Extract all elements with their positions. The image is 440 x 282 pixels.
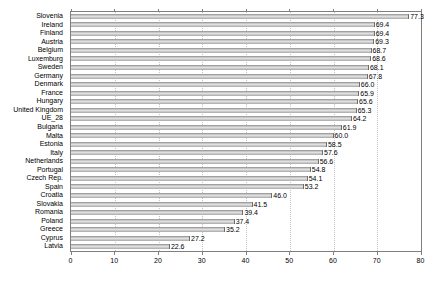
- bar-row: 69.4: [71, 21, 421, 30]
- category-label: Romania: [0, 208, 66, 217]
- category-label: France: [0, 89, 66, 98]
- bar: [71, 48, 372, 53]
- bar: [71, 210, 243, 215]
- value-label: 58.5: [328, 141, 342, 148]
- x-tick-label: 70: [366, 257, 388, 264]
- bar-row: 69.4: [71, 29, 421, 38]
- x-tick-label: 80: [410, 257, 432, 264]
- x-axis-tick: [421, 252, 422, 255]
- bar: [71, 39, 374, 44]
- x-axis-tick: [158, 252, 159, 255]
- bar-row: 68.7: [71, 46, 421, 55]
- bar: [71, 133, 334, 138]
- top-axis-tick: [71, 9, 72, 12]
- bar: [71, 108, 357, 113]
- category-label: Austria: [0, 38, 66, 47]
- x-tick-label: 20: [147, 257, 169, 264]
- bar-row: 54.1: [71, 174, 421, 183]
- bar-row: 53.2: [71, 183, 421, 192]
- bar: [71, 167, 311, 172]
- value-label: 64.2: [353, 115, 367, 122]
- value-label: 54.8: [312, 166, 326, 173]
- bar: [71, 184, 304, 189]
- bar: [71, 116, 352, 121]
- x-tick-label: 50: [278, 257, 300, 264]
- category-label: Cyprus: [0, 234, 66, 243]
- x-tick-label: 0: [60, 257, 82, 264]
- value-label: 68.6: [372, 55, 386, 62]
- x-axis-tick: [71, 252, 72, 255]
- value-label: 27.2: [191, 235, 205, 242]
- category-label: Denmark: [0, 80, 66, 89]
- value-label: 68.7: [373, 47, 387, 54]
- bar: [71, 142, 327, 147]
- category-label: UE_28: [0, 114, 66, 123]
- value-label: 77.3: [410, 13, 424, 20]
- value-label: 69.4: [376, 21, 390, 28]
- bar: [71, 236, 190, 241]
- bar-row: 58.5: [71, 140, 421, 149]
- bar-row: 61.9: [71, 123, 421, 132]
- x-tick-label: 40: [235, 257, 257, 264]
- bar-row: 46.0: [71, 191, 421, 200]
- bar-row: 67.8: [71, 72, 421, 81]
- value-label: 41.5: [254, 201, 268, 208]
- x-tick-label: 60: [322, 257, 344, 264]
- bar: [71, 65, 369, 70]
- category-label: Poland: [0, 217, 66, 226]
- value-label: 53.2: [305, 183, 319, 190]
- bar-row: 69.3: [71, 38, 421, 47]
- category-label: Germany: [0, 72, 66, 81]
- category-label: Luxemburg: [0, 55, 66, 64]
- bar-row: 60.0: [71, 132, 421, 141]
- bar: [71, 125, 342, 130]
- bar-row: 22.6: [71, 242, 421, 251]
- x-tick-label: 10: [103, 257, 125, 264]
- category-label: Spain: [0, 183, 66, 192]
- top-axis-tick: [289, 9, 290, 12]
- x-axis-tick: [202, 252, 203, 255]
- x-axis-tick: [246, 252, 247, 255]
- x-axis-tick: [114, 252, 115, 255]
- bar-row: 77.3: [71, 12, 421, 21]
- top-axis-tick: [377, 9, 378, 12]
- bar-row: 66.0: [71, 80, 421, 89]
- value-label: 69.4: [376, 30, 390, 37]
- bar-row: 37.4: [71, 217, 421, 226]
- value-label: 39.4: [244, 209, 258, 216]
- x-axis-tick: [289, 252, 290, 255]
- top-axis-tick: [158, 9, 159, 12]
- category-label: Bulgaria: [0, 123, 66, 132]
- category-label: Latvia: [0, 242, 66, 251]
- bar-row: 65.3: [71, 106, 421, 115]
- value-label: 60.0: [335, 132, 349, 139]
- bar: [71, 74, 368, 79]
- bar: [71, 82, 360, 87]
- x-axis-tick: [333, 252, 334, 255]
- category-label: Malta: [0, 132, 66, 141]
- bar: [71, 202, 253, 207]
- bar-row: 27.2: [71, 234, 421, 243]
- category-label: Hungary: [0, 97, 66, 106]
- value-label: 68.1: [370, 64, 384, 71]
- value-label: 57.6: [324, 149, 338, 156]
- horizontal-bar-chart: SloveniaIrelandFinlandAustriaBelgiumLuxe…: [0, 0, 440, 282]
- value-label: 22.6: [171, 243, 185, 250]
- top-axis-tick: [202, 9, 203, 12]
- value-label: 35.2: [226, 226, 240, 233]
- value-label: 54.1: [309, 175, 323, 182]
- bar: [71, 244, 170, 249]
- bar-row: 41.5: [71, 200, 421, 209]
- x-axis-tick: [377, 252, 378, 255]
- category-label: Portugal: [0, 166, 66, 175]
- top-axis-tick: [246, 9, 247, 12]
- bar: [71, 99, 358, 104]
- value-label: 56.6: [320, 158, 334, 165]
- bar-row: 39.4: [71, 208, 421, 217]
- bar: [71, 193, 272, 198]
- bar-row: 65.6: [71, 97, 421, 106]
- top-axis-tick: [421, 9, 422, 12]
- bar: [71, 176, 308, 181]
- bar-row: 65.9: [71, 89, 421, 98]
- category-label: Ireland: [0, 21, 66, 30]
